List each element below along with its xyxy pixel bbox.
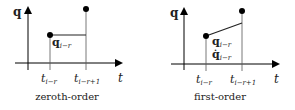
- x-axis-label: t: [118, 71, 123, 85]
- tick-label-t-i-r-plus-1: ti−r+1: [230, 73, 256, 87]
- y-axis-label: q: [13, 5, 22, 19]
- sample-point-i-r-plus-1: [83, 6, 89, 12]
- first-order-panel: q qi−r q̇i−r ti−r ti−r+1 t first-order: [170, 6, 279, 102]
- caption-first-order: first-order: [194, 91, 246, 102]
- sample-point-i-r-plus-1: [239, 8, 245, 14]
- interpolation-diagram: q qi−r ti−r ti−r+1 t zeroth-order q: [0, 0, 295, 110]
- caption-zeroth-order: zeroth-order: [35, 91, 99, 102]
- tick-label-t-i-r: ti−r: [196, 73, 213, 87]
- sample-point-i-r: [203, 33, 209, 39]
- tick-label-t-i-r-plus-1: ti−r+1: [74, 72, 100, 86]
- y-axis-label: q: [170, 6, 179, 20]
- annotation-q-i-r: qi−r: [52, 36, 72, 50]
- annotation-q-i-r: qi−r: [212, 35, 232, 49]
- tick-label-t-i-r: ti−r: [41, 72, 58, 86]
- x-axis-label: t: [274, 72, 279, 86]
- annotation-qdot-i-r: q̇i−r: [212, 48, 232, 62]
- zeroth-order-panel: q qi−r ti−r ti−r+1 t zeroth-order: [13, 5, 123, 102]
